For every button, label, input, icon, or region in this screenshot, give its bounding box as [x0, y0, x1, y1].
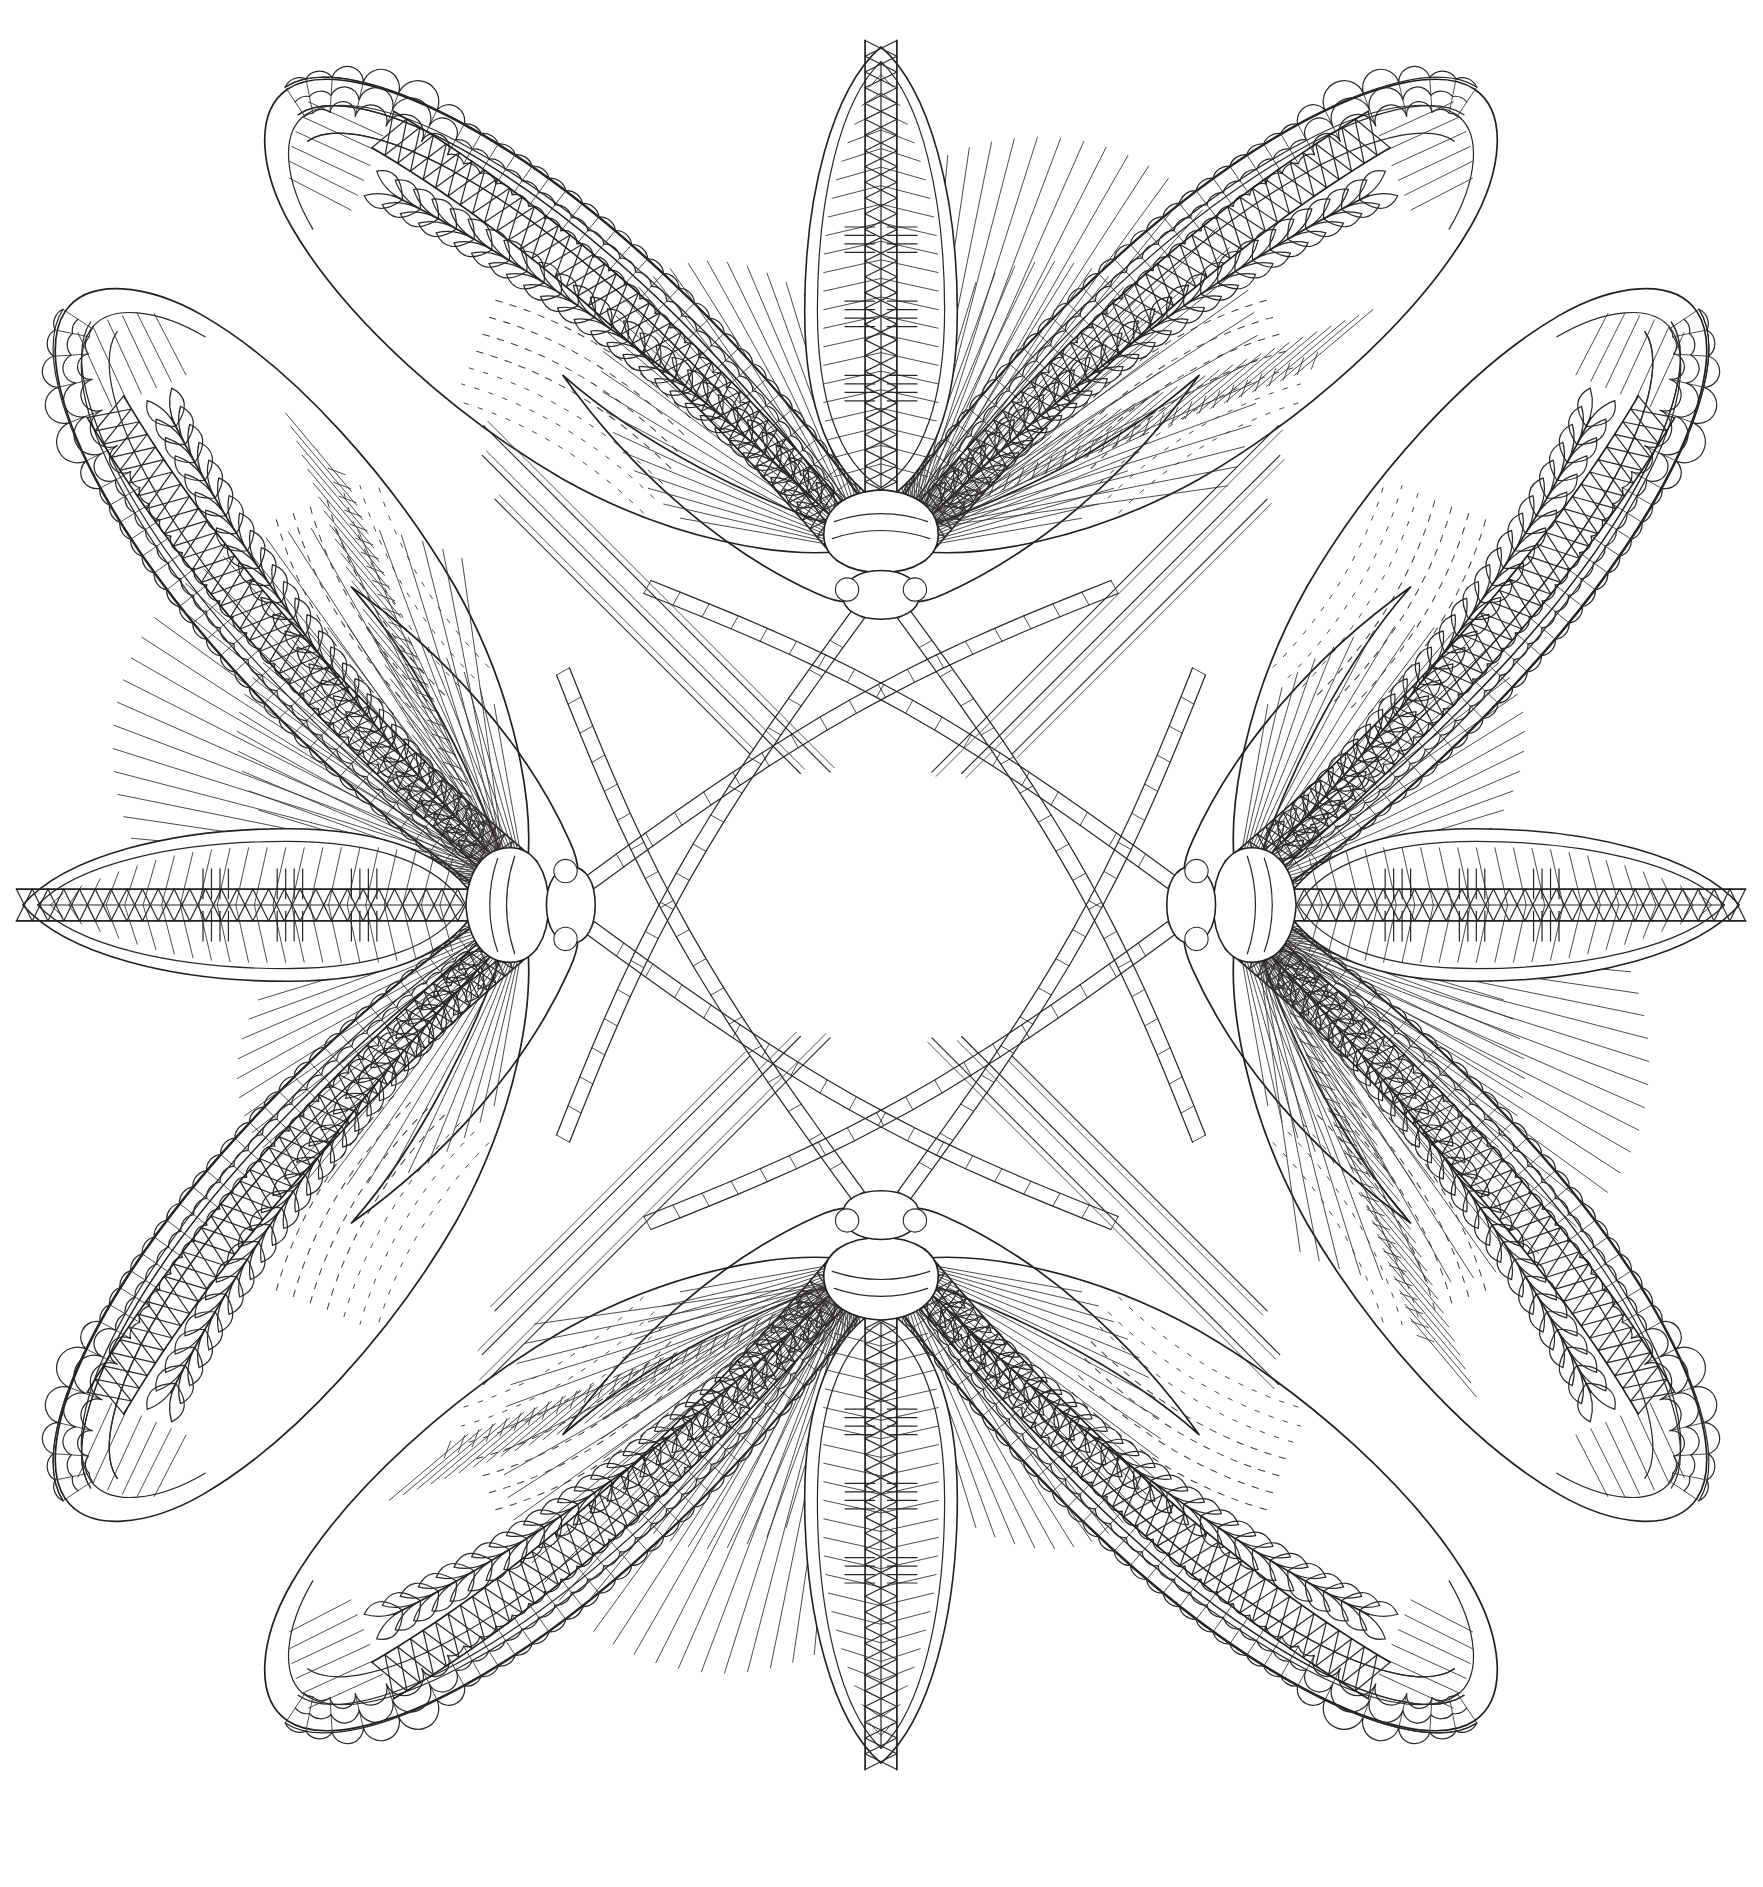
artboard — [0, 0, 1763, 1887]
moth-mandala-illustration — [0, 0, 1763, 1887]
